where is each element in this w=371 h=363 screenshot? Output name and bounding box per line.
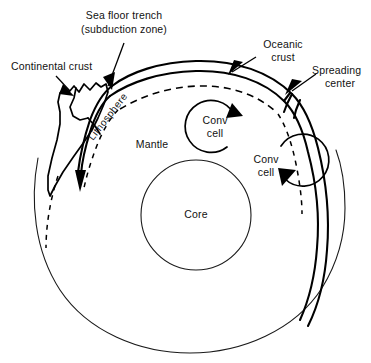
label-oceanic-crust-line2: crust [271,51,295,63]
label-continental-crust: Continental crust [11,60,92,72]
label-spreading-center-line1: Spreading [312,64,361,76]
lithosphere-boundary-dashed-right [278,114,302,214]
label-sea-floor-trench-line1: Sea floor trench [86,9,163,21]
oceanic-crust-outer-line [112,61,328,326]
label-mantle: Mantle [136,138,168,150]
earth-cross-section-diagram: Sea floor trench (subduction zone) Conti… [0,0,371,363]
label-spreading-center-line2: center [325,77,355,89]
label-conv-cell-2-line2: cell [258,166,274,178]
label-conv-cell-1-line1: Conv [202,114,228,126]
conv-cell-1-arrow-head [226,103,243,118]
subduction-arrow-head [75,170,86,192]
spreading-center-right-flank [294,100,300,118]
label-conv-cell-1-line2: cell [207,127,223,139]
lithosphere-boundary-dashed [120,86,276,112]
conv-cell-2-arrow-head [278,168,296,186]
label-oceanic-crust-line1: Oceanic [263,38,303,50]
label-conv-cell-2-line1: Conv [253,153,279,165]
label-sea-floor-trench-line2: (subduction zone) [81,23,167,35]
oceanic-crust-leader-head [228,60,243,75]
spreading-center-leader-head [285,79,302,95]
diagram-canvas: Sea floor trench (subduction zone) Conti… [0,0,371,363]
oceanic-crust-inner-line [110,71,318,320]
label-core: Core [184,208,207,220]
